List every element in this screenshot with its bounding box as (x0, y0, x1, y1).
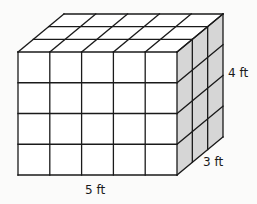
depth-label: 3 ft (203, 156, 223, 168)
height-label: 4 ft (228, 67, 248, 79)
unit-cube-prism (0, 0, 257, 204)
prism-diagram: 5 ft 4 ft 3 ft (0, 0, 257, 204)
length-label: 5 ft (85, 184, 105, 196)
